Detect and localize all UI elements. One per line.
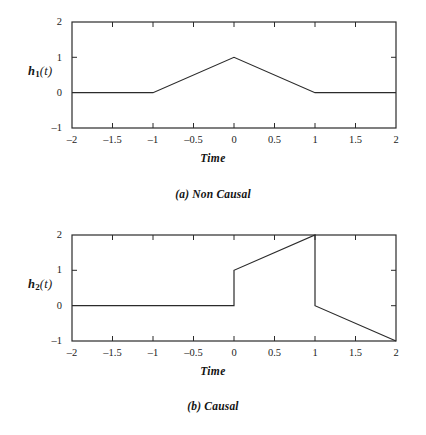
x-tick-label-h2-2: –1 [137, 347, 169, 358]
y-ticks-right-h2 [391, 270, 396, 305]
x-tick-label-h1-8: 2 [380, 134, 412, 145]
x-tick-label-h2-4: 0 [218, 347, 250, 358]
x-tick-label-h2-0: –2 [56, 347, 88, 358]
x-tick-label-h2-3: –0.5 [175, 347, 212, 358]
x-ticks-h1 [113, 123, 356, 128]
data-series-h2 [72, 235, 396, 341]
x-tick-label-h1-3: –0.5 [175, 134, 212, 145]
chart-panel-h1: h1(t) 2 1 0 –1 [0, 0, 426, 215]
caption-h2: (b) Causal [0, 400, 426, 412]
plot-frame-h1 [72, 22, 396, 128]
plot-area-h1 [0, 0, 426, 215]
x-ticks-top-h1 [113, 22, 356, 27]
x-tick-label-h2-8: 2 [380, 347, 412, 358]
x-tick-label-h1-5: 0.5 [257, 134, 292, 145]
x-tick-label-h2-6: 1 [299, 347, 331, 358]
x-tick-label-h1-6: 1 [299, 134, 331, 145]
x-axis-title-h2: Time [0, 365, 426, 377]
x-tick-label-h1-1: –1.5 [94, 134, 131, 145]
x-axis-title-h1: Time [0, 152, 426, 164]
chart-panel-h2: h2(t) 2 1 0 –1 [0, 213, 426, 435]
x-tick-label-h2-7: 1.5 [338, 347, 373, 358]
x-ticks-h2 [113, 336, 356, 341]
figure-container: h1(t) 2 1 0 –1 [0, 0, 426, 435]
caption-h1: (a) Non Causal [0, 188, 426, 200]
plot-svg-h1 [0, 0, 426, 215]
x-tick-label-h1-2: –1 [137, 134, 169, 145]
x-tick-label-h1-7: 1.5 [338, 134, 373, 145]
data-series-h1 [72, 57, 396, 92]
x-tick-label-h2-5: 0.5 [257, 347, 292, 358]
x-ticks-top-h2 [113, 235, 356, 240]
x-tick-label-h1-4: 0 [218, 134, 250, 145]
x-tick-label-h2-1: –1.5 [94, 347, 131, 358]
x-tick-label-h1-0: –2 [56, 134, 88, 145]
